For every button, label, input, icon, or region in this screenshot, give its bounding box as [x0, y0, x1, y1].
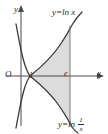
x-tick-label-1: 1: [29, 72, 33, 80]
fraction-one-over-x: 1x: [78, 117, 84, 133]
x-tick-label-e: e: [64, 70, 68, 78]
fraction-denominator: x: [78, 126, 84, 133]
x-axis-label: x: [97, 69, 101, 78]
y-axis-arrowhead: [18, 5, 24, 12]
curve-label-ln-one-over-x: y=ln 1x: [58, 117, 84, 133]
curve-label-ln-x: y=ln x: [52, 8, 75, 17]
y-axis-label: y: [14, 5, 18, 14]
origin-label: O: [5, 70, 12, 79]
curve-label-ln-one-over-x-prefix: y=ln: [58, 119, 77, 129]
fraction-numerator: 1: [78, 117, 84, 124]
figure-canvas: [0, 0, 108, 134]
math-figure: y x O 1 e y=ln x y=ln 1x: [0, 0, 108, 134]
